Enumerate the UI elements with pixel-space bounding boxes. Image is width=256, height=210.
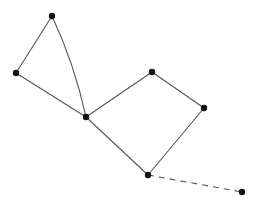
node-n5	[201, 105, 207, 111]
node-n6	[145, 172, 151, 178]
edge-n3-n4	[86, 72, 152, 117]
node-n2	[13, 70, 19, 76]
edge-n1-n2	[16, 16, 52, 73]
edge-n1-n3	[52, 16, 86, 117]
node-n7	[239, 189, 245, 195]
edges-group	[16, 16, 242, 192]
nodes-group	[13, 13, 245, 195]
graph-diagram	[0, 0, 256, 210]
node-n1	[49, 13, 55, 19]
edge-n2-n3	[16, 73, 86, 117]
node-n3	[83, 114, 89, 120]
edge-n6-n7	[148, 175, 242, 192]
edge-n5-n6	[148, 108, 204, 175]
edge-n4-n5	[152, 72, 204, 108]
edge-n3-n6	[86, 117, 148, 175]
node-n4	[149, 69, 155, 75]
